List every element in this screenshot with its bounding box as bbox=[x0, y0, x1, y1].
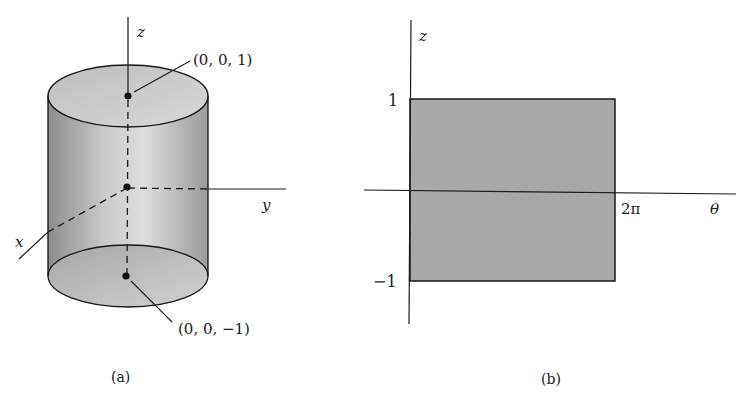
figure-canvas: z y x (0, 0, 1) (0, 0, −1) (a) z θ 1 −1 … bbox=[0, 0, 744, 407]
cylinder-figure: z y x (0, 0, 1) (0, 0, −1) (a) bbox=[15, 17, 286, 385]
caption-a: (a) bbox=[111, 369, 130, 385]
point-top bbox=[124, 92, 131, 99]
tick-z-neg1: −1 bbox=[373, 272, 397, 291]
tick-theta-2pi: 2π bbox=[621, 200, 641, 218]
region-rectangle bbox=[410, 99, 615, 281]
theta-z-plot: z θ 1 −1 2π (b) bbox=[364, 20, 736, 387]
z-axis-label: z bbox=[136, 23, 145, 41]
point-bottom bbox=[122, 272, 129, 279]
point-bottom-label: (0, 0, −1) bbox=[178, 320, 250, 338]
theta-axis-label: θ bbox=[710, 200, 719, 218]
point-top-label: (0, 0, 1) bbox=[193, 51, 252, 69]
caption-b: (b) bbox=[541, 371, 561, 387]
x-axis-label: x bbox=[15, 233, 24, 251]
tick-z-1: 1 bbox=[388, 91, 398, 110]
z-axis-label-b: z bbox=[418, 27, 427, 45]
y-axis-label: y bbox=[261, 196, 271, 214]
point-origin bbox=[123, 183, 130, 190]
